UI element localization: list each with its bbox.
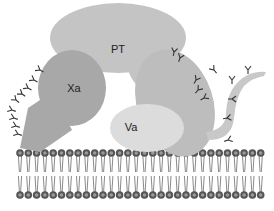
phospholipid-bilayer [16,149,264,199]
diagram-canvas [0,0,274,211]
prothrombinase-diagram: PT Xa Va [0,0,274,211]
factor-va-tail [206,72,266,140]
label-va: Va [125,121,138,133]
factor-va-shape [110,104,184,152]
label-xa: Xa [67,82,80,94]
label-pt: PT [111,43,125,55]
